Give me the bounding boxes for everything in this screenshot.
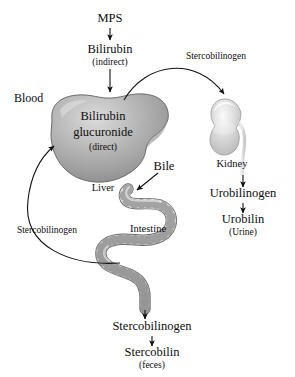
label-intestine: Intestine bbox=[130, 223, 166, 234]
label-urine-qualifier: (Urine) bbox=[229, 228, 257, 238]
diagram-canvas: MPS Bilirubin (indirect) Blood Bilirubin… bbox=[0, 0, 295, 377]
label-stercobilin: Stercobilin bbox=[125, 346, 180, 359]
label-bile: Bile bbox=[154, 160, 175, 173]
edge-liver-to-intestine bbox=[137, 173, 158, 190]
intestine-shape bbox=[101, 187, 171, 309]
label-mps: MPS bbox=[97, 12, 122, 25]
label-bilirubin-glucuronide-line2: glucuronide bbox=[73, 126, 133, 139]
label-bilirubin-glucuronide-line1: Bilirubin bbox=[80, 110, 125, 123]
label-stercobilinogen: Stercobilinogen bbox=[112, 320, 191, 333]
label-stercobilinogen-arc-top: Stercobilinogen bbox=[186, 52, 246, 62]
label-urobilinogen: Urobilinogen bbox=[210, 187, 277, 200]
label-liver: Liver bbox=[92, 182, 115, 193]
label-kidney: Kidney bbox=[217, 158, 248, 169]
label-urobilin: Urobilin bbox=[222, 213, 264, 226]
label-direct-qualifier: (direct) bbox=[89, 143, 117, 153]
label-stercobilinogen-arc-left: Stercobilinogen bbox=[17, 226, 77, 236]
label-bilirubin: Bilirubin bbox=[87, 43, 132, 56]
label-bilirubin-qualifier: (indirect) bbox=[92, 58, 127, 68]
label-feces-qualifier: (feces) bbox=[139, 361, 165, 371]
label-blood: Blood bbox=[14, 92, 43, 105]
